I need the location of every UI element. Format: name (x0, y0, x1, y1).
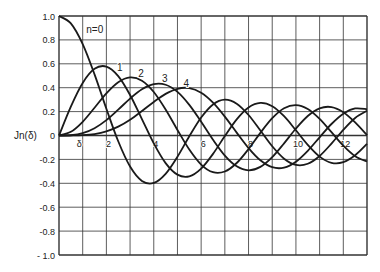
series-label: 3 (162, 73, 168, 84)
y-tick-label: -0.6 (39, 203, 55, 213)
y-tick-label: 0.2 (42, 107, 55, 117)
x-axis-label: δ (77, 139, 82, 149)
series-label: 2 (138, 68, 144, 79)
y-tick-label: 0.8 (42, 35, 55, 45)
series-label: n=0 (86, 24, 103, 35)
y-tick-label: 0.6 (42, 59, 55, 69)
series-line-n-4 (59, 88, 367, 169)
y-tick-label: -0.8 (39, 227, 55, 237)
series-label: 1 (117, 62, 123, 73)
y-tick-label: 1.0 (42, 12, 55, 22)
data-series (59, 16, 367, 184)
series-label: 4 (183, 78, 189, 89)
y-axis-ticks: 1.00.80.60.40.20-0.2-0.4-0.6-0.8- 1.0 (37, 12, 55, 261)
bessel-function-chart: 1.00.80.60.40.20-0.2-0.4-0.6-0.8- 1.0 24… (0, 0, 380, 272)
y-tick-label: 0.4 (42, 83, 55, 93)
y-axis-label: Jn(δ) (14, 130, 37, 141)
x-tick-label: 6 (201, 139, 206, 149)
y-tick-label: - 1.0 (37, 251, 55, 261)
y-tick-label: 0 (50, 131, 55, 141)
x-tick-label: 10 (293, 139, 303, 149)
y-tick-label: -0.4 (39, 179, 55, 189)
x-tick-label: 2 (106, 139, 111, 149)
y-tick-label: -0.2 (39, 155, 55, 165)
series-labels: n=01234 (86, 24, 189, 89)
